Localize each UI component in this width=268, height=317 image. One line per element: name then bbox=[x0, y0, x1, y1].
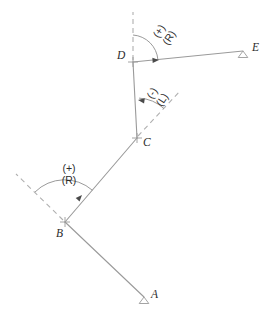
angle-sign-B: (+) bbox=[52, 162, 86, 174]
traverse-svg-canvas bbox=[0, 0, 268, 317]
segment-AB bbox=[65, 222, 144, 297]
segment-DE bbox=[133, 51, 243, 62]
angle-arrowhead-B bbox=[76, 193, 84, 201]
angle-hand-B: (R) bbox=[52, 174, 86, 186]
station-marker-E bbox=[238, 51, 248, 58]
station-label-B: B bbox=[56, 228, 63, 240]
station-marker-A bbox=[139, 297, 149, 304]
station-label-D: D bbox=[117, 50, 125, 62]
station-label-A: A bbox=[151, 289, 158, 301]
station-label-E: E bbox=[252, 42, 259, 54]
angle-arrowheads bbox=[76, 57, 159, 201]
segment-CD bbox=[133, 62, 137, 138]
station-label-C: C bbox=[143, 137, 151, 149]
station-marker-D bbox=[128, 57, 138, 67]
angle-label-B: (+) (R) bbox=[52, 162, 86, 187]
traverse-diagram: A B C D E (+) (R) (-) (L) (+) (R) bbox=[0, 0, 268, 317]
